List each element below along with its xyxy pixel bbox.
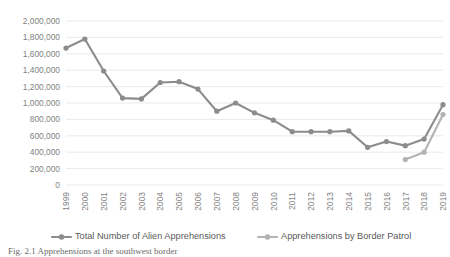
data-point-marker [422, 136, 427, 141]
data-point-marker [327, 129, 332, 134]
data-point-marker [158, 80, 163, 85]
x-tick-label: 2007 [212, 192, 222, 211]
x-axis-labels: 1999200020012002200320042005200620072008… [61, 192, 448, 211]
data-point-marker [403, 143, 408, 148]
x-tick-label: 2016 [382, 192, 392, 211]
x-tick-label: 2014 [344, 192, 354, 211]
legend-swatch-marker [59, 234, 65, 240]
data-point-marker [384, 139, 389, 144]
x-tick-label: 2011 [287, 192, 297, 210]
data-point-marker [101, 68, 106, 73]
y-tick-label: 800,000 [30, 114, 61, 124]
data-point-marker [346, 128, 351, 133]
data-point-marker [82, 36, 87, 41]
data-point-marker [195, 86, 200, 91]
legend-label: Apprehensions by Border Patrol [281, 231, 411, 241]
y-tick-label: 1,200,000 [23, 82, 61, 92]
y-tick-label: 1,800,000 [23, 32, 61, 42]
data-point-marker [440, 112, 445, 117]
x-tick-label: 2008 [231, 192, 241, 211]
x-tick-label: 1999 [61, 192, 71, 211]
legend-item[interactable]: Apprehensions by Border Patrol [258, 231, 411, 241]
y-axis-labels: 2,000,0001,800,0001,600,0001,400,0001,20… [23, 16, 61, 190]
x-tick-label: 2019 [438, 192, 448, 211]
data-point-marker [63, 45, 68, 50]
data-point-marker [252, 110, 257, 115]
data-point-marker [365, 145, 370, 150]
data-point-marker [290, 129, 295, 134]
chart-figure: 2,000,0001,800,0001,600,0001,400,0001,20… [0, 0, 450, 257]
x-tick-label: 2009 [250, 192, 260, 211]
gridlines-group [66, 21, 443, 185]
x-tick-label: 2001 [99, 192, 109, 211]
data-point-marker [120, 95, 125, 100]
data-point-marker [177, 79, 182, 84]
x-tick-label: 2005 [174, 192, 184, 211]
x-tick-label: 2004 [155, 192, 165, 211]
y-tick-label: 2,000,000 [23, 16, 61, 26]
y-tick-label: 600,000 [30, 131, 61, 141]
data-point-marker [233, 100, 238, 105]
y-tick-label: 1,000,000 [23, 98, 61, 108]
x-tick-label: 2018 [419, 192, 429, 211]
y-tick-label: 1,400,000 [23, 65, 61, 75]
x-tick-label: 2010 [269, 192, 279, 211]
y-tick-label: 200,000 [30, 164, 61, 174]
y-tick-label: 0 [55, 180, 60, 190]
data-point-marker [422, 150, 427, 155]
x-tick-label: 2015 [363, 192, 373, 211]
figure-caption-strip: Fig. 2.1 Apprehensions at the southwest … [0, 248, 450, 257]
data-point-marker [139, 96, 144, 101]
x-tick-label: 2017 [401, 192, 411, 211]
data-point-marker [214, 109, 219, 114]
x-tick-label: 2003 [137, 192, 147, 211]
legend-swatch-marker [265, 234, 271, 240]
figure-caption: Fig. 2.1 Apprehensions at the southwest … [8, 248, 177, 256]
data-point-marker [440, 102, 445, 107]
series-line [66, 39, 443, 147]
legend-label: Total Number of Alien Apprehensions [75, 231, 226, 241]
data-point-marker [271, 118, 276, 123]
y-tick-label: 1,600,000 [23, 49, 61, 59]
line-chart-plot: 2,000,0001,800,0001,600,0001,400,0001,20… [0, 0, 450, 257]
data-point-marker [403, 157, 408, 162]
y-tick-label: 400,000 [30, 147, 61, 157]
data-point-marker [308, 129, 313, 134]
legend-item[interactable]: Total Number of Alien Apprehensions [52, 231, 226, 241]
x-tick-label: 2002 [118, 192, 128, 211]
x-tick-label: 2000 [80, 192, 90, 211]
x-tick-label: 2012 [306, 192, 316, 211]
chart-legend: Total Number of Alien ApprehensionsAppre… [52, 231, 411, 241]
x-tick-label: 2006 [193, 192, 203, 211]
x-tick-label: 2013 [325, 192, 335, 211]
